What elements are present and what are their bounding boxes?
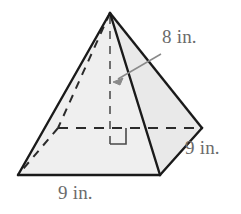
base-side-bottom-dimension-label: 9 in. [58,182,93,204]
height-dimension-label: 8 in. [162,26,197,48]
pyramid-drawing [0,0,241,214]
pyramid-figure: 8 in. 9 in. 9 in. [0,0,241,214]
base-side-right-dimension-label: 9 in. [185,137,220,159]
